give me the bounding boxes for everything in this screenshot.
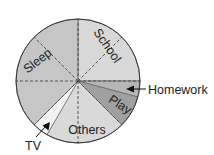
label-others: Others [68, 123, 106, 137]
label-tv: TV [25, 139, 42, 153]
label-homework: Homework [148, 83, 208, 97]
pie-chart: School Homework Play Others TV Sleep [0, 0, 214, 155]
